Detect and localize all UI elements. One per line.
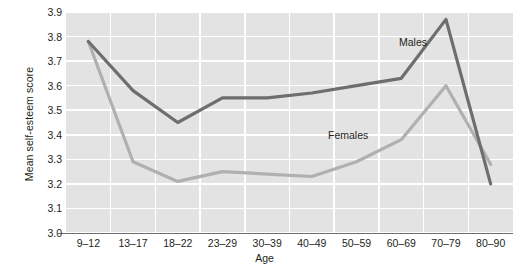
series-line-females [88,41,490,181]
series-label-females: Females [328,129,368,141]
x-axis-title: Age [0,252,529,264]
series-line-males [88,19,490,184]
series-label-males: Males [399,36,427,48]
series-lines [0,0,529,271]
self-esteem-line-chart: Mean self-esteem score 3.03.13.23.33.43.… [0,0,529,271]
